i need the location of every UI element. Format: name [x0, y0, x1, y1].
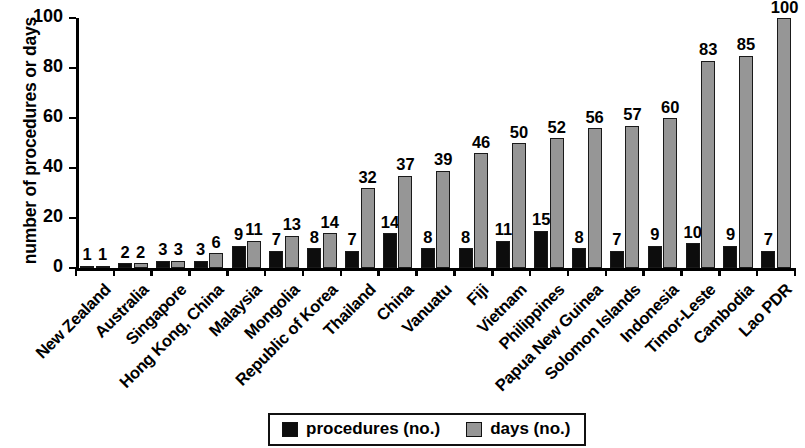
x-axis-tick: [75, 268, 78, 276]
y-axis-tick: 60: [69, 117, 76, 120]
bar-procedures: [118, 263, 132, 268]
x-axis-category-label-text: Solomon Islands: [541, 280, 645, 384]
bar-procedures: [232, 246, 246, 269]
y-axis-tick-label: 40: [43, 156, 63, 177]
y-axis-tick-label: 100: [33, 6, 63, 27]
y-axis-tick-label: 20: [43, 206, 63, 227]
x-axis-category-label-text: Cambodia: [690, 280, 758, 348]
bar-days: [247, 241, 261, 269]
x-axis-tick: [642, 268, 645, 276]
x-axis-category-label-text: Indonesia: [616, 280, 682, 346]
y-axis-tick: 80: [69, 67, 76, 70]
bar-value-label: 56: [582, 109, 608, 126]
y-axis-tick-label: 0: [53, 256, 63, 277]
x-axis-category-label-text: Hong Kong, China: [116, 280, 228, 392]
x-axis-tick: [453, 268, 456, 276]
bar-chart-figure: number of procedures or days 02040608010…: [0, 0, 805, 448]
bar-procedures: [648, 246, 662, 269]
bar-value-label: 83: [695, 41, 721, 58]
bar-group: 839: [421, 18, 451, 268]
bar-procedures: [269, 251, 283, 269]
bar-days: [398, 176, 412, 269]
bar-group: 1083: [686, 18, 716, 268]
x-axis-tick: [756, 268, 759, 276]
bar-value-label: 60: [657, 99, 683, 116]
x-axis-tick: [794, 268, 797, 276]
bar-group: 1552: [534, 18, 564, 268]
bar-group: 22: [118, 18, 148, 268]
x-axis-category-label-text: Malaysia: [205, 280, 265, 340]
bar-procedures: [459, 248, 473, 268]
bar-procedures: [194, 261, 208, 269]
x-axis-tick: [718, 268, 721, 276]
bar-group: 814: [307, 18, 337, 268]
x-axis-category-label-text: Australia: [91, 280, 152, 341]
bar-group: 33: [156, 18, 186, 268]
x-axis-category-label-text: Republic of Korea: [232, 280, 342, 390]
x-axis-category-label-text: Vanuatu: [398, 280, 455, 337]
x-axis-tick: [264, 268, 267, 276]
y-axis-tick: 40: [69, 167, 76, 170]
x-axis-tick: [340, 268, 343, 276]
bar-days: [588, 128, 602, 268]
bar-days: [663, 118, 677, 268]
x-axis-category-label-text: Thailand: [320, 280, 380, 340]
x-axis-category-label-text: China: [372, 280, 417, 325]
bar-procedures: [610, 251, 624, 269]
x-axis-tick: [188, 268, 191, 276]
y-axis-tick: 20: [69, 217, 76, 220]
legend-item: procedures (no.): [282, 419, 440, 439]
bar-days: [739, 56, 753, 269]
bar-value-label: 32: [355, 169, 381, 186]
x-axis-tick: [605, 268, 608, 276]
bar-group: 732: [345, 18, 375, 268]
bar-group: 911: [232, 18, 262, 268]
bar-procedures: [572, 248, 586, 268]
legend-swatch-days: [466, 422, 482, 437]
bar-procedures: [686, 243, 700, 268]
bar-days: [625, 126, 639, 269]
y-axis-tick-label: 60: [43, 106, 63, 127]
bar-procedures: [80, 266, 94, 269]
x-axis-tick: [680, 268, 683, 276]
bar-procedures: [723, 246, 737, 269]
bar-group: 36: [194, 18, 224, 268]
x-axis-category-label-text: New Zealand: [32, 280, 114, 362]
bar-procedures: [421, 248, 435, 268]
bar-group: 757: [610, 18, 640, 268]
chart-legend: procedures (no.)days (no.): [268, 413, 586, 446]
bar-days: [96, 266, 110, 269]
legend-label: days (no.): [490, 419, 570, 439]
bar-group: 856: [572, 18, 602, 268]
bar-days: [436, 171, 450, 269]
bar-procedures: [761, 251, 775, 269]
bar-value-label: 57: [619, 106, 645, 123]
bar-value-label: 46: [468, 134, 494, 151]
bar-value-label: 100: [771, 0, 797, 15]
bar-procedures: [307, 248, 321, 268]
x-axis-category-label-text: Timor-Leste: [642, 280, 720, 358]
bar-group: 1437: [383, 18, 413, 268]
y-axis-tick: 100: [69, 17, 76, 20]
bar-days: [209, 253, 223, 268]
bar-group: 7100: [761, 18, 791, 268]
x-axis-category-label-text: Papua New Guinea: [491, 280, 606, 395]
bar-procedures: [496, 241, 510, 269]
legend-swatch-procedures: [282, 422, 298, 437]
legend-label: procedures (no.): [306, 419, 440, 439]
bar-group: 1150: [496, 18, 526, 268]
bar-days: [550, 138, 564, 268]
bar-days: [777, 18, 791, 268]
bar-value-label: 37: [392, 156, 418, 173]
x-axis-tick: [567, 268, 570, 276]
x-axis-category-label-text: Vietnam: [473, 280, 530, 337]
x-axis-tick: [491, 268, 494, 276]
legend-item: days (no.): [466, 419, 570, 439]
bar-value-label: 52: [544, 119, 570, 136]
bar-value-label: 39: [430, 151, 456, 168]
bar-days: [361, 188, 375, 268]
y-axis-title: number of procedures or days: [20, 0, 41, 286]
bar-procedures: [534, 231, 548, 269]
x-axis-tick: [226, 268, 229, 276]
bar-days: [323, 233, 337, 268]
